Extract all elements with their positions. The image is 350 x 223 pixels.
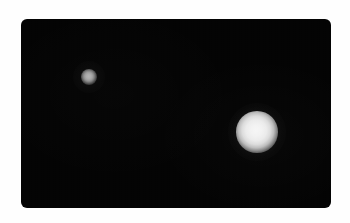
bright-object-halo	[228, 103, 286, 161]
bright-disk-icon	[236, 111, 278, 153]
sky-field	[21, 19, 331, 208]
faint-disk-icon	[81, 69, 97, 85]
image-canvas: Two unresolved luminous objects on a bla…	[0, 0, 350, 223]
faint-object-halo	[73, 61, 105, 93]
film-grain-overlay	[21, 19, 331, 208]
